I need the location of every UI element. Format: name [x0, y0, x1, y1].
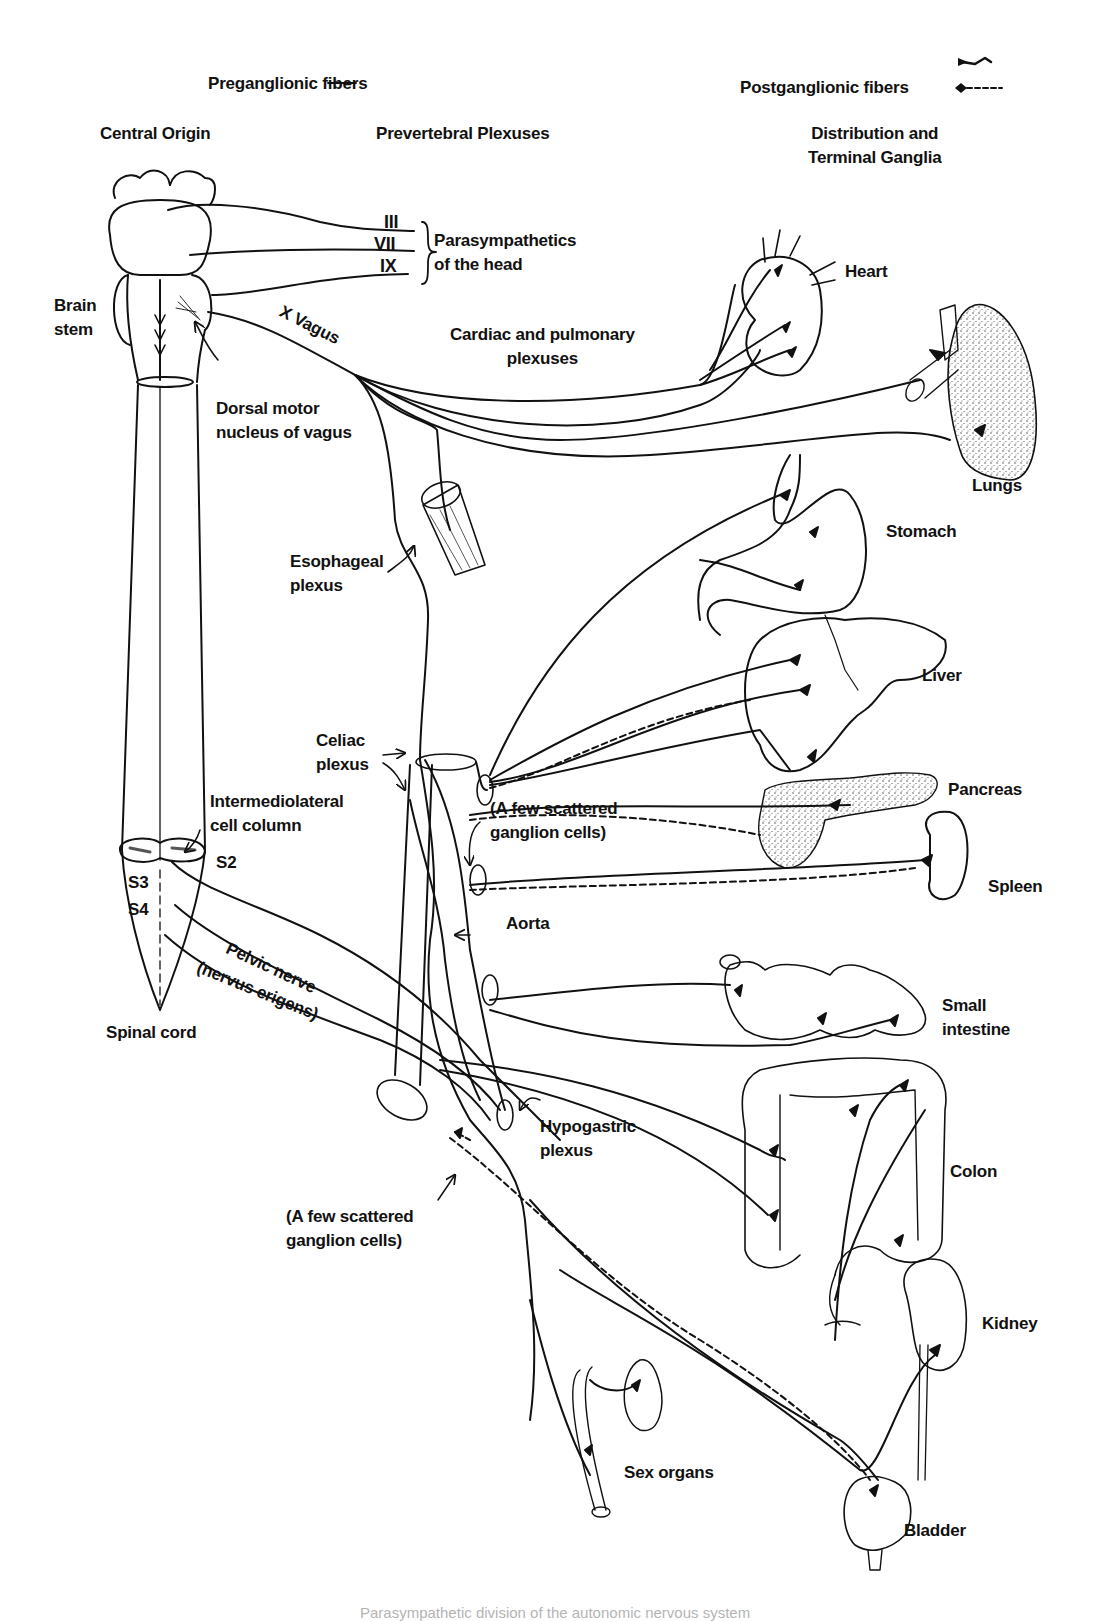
stomach-drawing — [490, 455, 866, 775]
label-scattered-ganglion-cells-1: (A few scattered ganglion cells) — [490, 797, 618, 845]
colon-drawing — [440, 1058, 946, 1340]
cranial-nerve-vii: VII — [374, 232, 395, 256]
organ-label-colon: Colon — [950, 1160, 997, 1184]
legend-postganglionic-label: Postganglionic fibers — [740, 76, 909, 100]
heart-drawing — [700, 230, 835, 385]
label-s3: S3 — [128, 871, 148, 895]
brain-stem-drawing — [109, 171, 215, 387]
label-cardiac-pulmonary-plexuses: Cardiac and pulmonary plexuses — [450, 323, 635, 371]
bladder-drawing — [450, 1138, 911, 1570]
column-prevertebral: Prevertebral Plexuses — [376, 122, 549, 146]
nerve-ix — [212, 274, 408, 295]
organ-label-pancreas: Pancreas — [948, 778, 1022, 802]
organ-label-lungs: Lungs — [972, 474, 1022, 498]
label-s4: S4 — [128, 898, 148, 922]
label-s2: S2 — [216, 851, 236, 875]
label-head-parasympathetics: Parasympathetics of the head — [434, 229, 576, 277]
legend-postganglionic-symbol — [955, 58, 1002, 93]
kidney-drawing — [560, 1259, 966, 1480]
small-intestine-drawing — [490, 955, 926, 1046]
label-dorsal-motor-nucleus: Dorsal motor nucleus of vagus — [216, 397, 352, 445]
label-aorta: Aorta — [506, 912, 549, 936]
organ-label-sex-organs: Sex organs — [624, 1461, 714, 1485]
column-central-origin: Central Origin — [100, 122, 211, 146]
cranial-nerve-iii: III — [384, 210, 398, 234]
label-celiac-plexus: Celiac plexus — [316, 729, 369, 777]
organ-label-small-intestine: Small intestine — [942, 994, 1010, 1042]
label-scattered-ganglion-cells-2: (A few scattered ganglion cells) — [286, 1205, 414, 1253]
organ-label-stomach: Stomach — [886, 520, 956, 544]
nerve-iii — [168, 205, 414, 231]
cranial-nerve-ix: IX — [380, 254, 397, 278]
esophagus-drawing — [418, 477, 485, 575]
figure-caption: Parasympathetic division of the autonomi… — [360, 1604, 750, 1621]
organ-label-heart: Heart — [845, 260, 887, 284]
legend-preganglionic-label: Preganglionic fibers — [208, 72, 367, 96]
organ-label-bladder: Bladder — [904, 1519, 966, 1543]
label-esophageal-plexus: Esophageal plexus — [290, 550, 383, 598]
organ-label-spleen: Spleen — [988, 875, 1043, 899]
label-hypogastric-plexus: Hypogastric plexus — [540, 1115, 636, 1163]
liver-drawing — [490, 615, 946, 788]
label-brain-stem: Brain stem — [54, 294, 96, 342]
lungs-drawing — [902, 305, 1036, 480]
label-spinal-cord: Spinal cord — [106, 1021, 196, 1045]
label-intermediolateral-cell-column: Intermediolateral cell column — [210, 790, 344, 838]
organ-label-liver: Liver — [922, 664, 962, 688]
column-distribution: Distribution and Terminal Ganglia — [808, 122, 941, 170]
organ-label-kidney: Kidney — [982, 1312, 1037, 1336]
